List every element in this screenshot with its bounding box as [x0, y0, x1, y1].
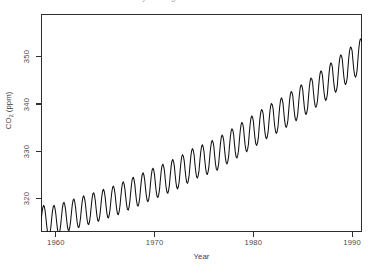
x-axis-tick — [253, 232, 254, 237]
y-axis-title-unit: (ppm) — [4, 92, 13, 115]
chart-title: Monthly Average CO2 Concentration — [0, 0, 373, 2]
x-axis-tick-label: 1990 — [332, 238, 372, 247]
y-axis-tick-label: 320 — [20, 186, 34, 212]
data-series-plot — [41, 14, 362, 232]
y-axis-tick-label: 340 — [20, 91, 34, 117]
y-axis-title: CO2 (ppm) — [4, 81, 13, 141]
y-axis-title-main: CO — [4, 118, 13, 130]
y-axis-tick-label: 350 — [20, 44, 34, 70]
x-axis-tick-label: 1980 — [233, 238, 273, 247]
co2-line-path — [41, 39, 362, 232]
y-axis-tick — [36, 198, 41, 199]
x-axis-tick — [55, 232, 56, 237]
chart-figure: Monthly Average CO2 Concentration 320330… — [0, 0, 373, 272]
y-axis-tick — [36, 56, 41, 57]
x-axis-tick-label: 1970 — [135, 238, 175, 247]
y-axis-title-subscript: 2 — [7, 114, 13, 117]
x-axis-tick-label: 1960 — [36, 238, 76, 247]
y-axis-tick — [36, 103, 41, 104]
y-axis-tick — [36, 151, 41, 152]
y-axis-tick-label: 330 — [20, 138, 34, 164]
x-axis-tick — [352, 232, 353, 237]
x-axis-tick — [154, 232, 155, 237]
x-axis-title: Year — [41, 252, 362, 261]
